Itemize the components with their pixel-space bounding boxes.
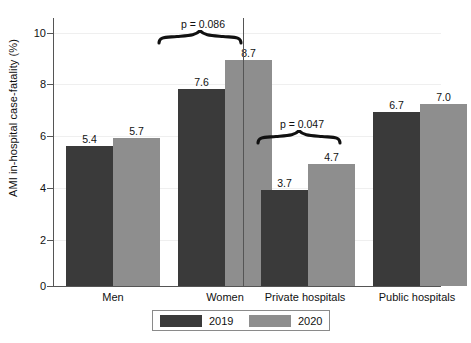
bar-value-public-2019: 6.7 xyxy=(373,99,420,111)
y-tick-label-10: 10 xyxy=(22,27,46,39)
brace-icon xyxy=(255,130,349,146)
category-label-men: Men xyxy=(66,291,160,303)
y-tick-label-0: 0 xyxy=(22,280,46,292)
y-axis-title: AMI in-hospital case-fatality (%) xyxy=(7,0,19,243)
p-value-label-private: p = 0.047 xyxy=(255,118,349,130)
y-tick-label-8: 8 xyxy=(22,78,46,90)
category-label-private-hospitals: Private hospitals xyxy=(244,291,366,303)
legend-item-2020[interactable]: 2020 xyxy=(249,315,322,327)
y-tick-label-6: 6 xyxy=(22,130,46,142)
x-axis-line xyxy=(53,286,441,287)
y-tick-label-4: 4 xyxy=(22,182,46,194)
legend-item-2019[interactable]: 2019 xyxy=(160,315,233,327)
y-axis-title-container: AMI in-hospital case-fatality (%) xyxy=(0,0,16,300)
bar-women-2019 xyxy=(178,89,225,286)
bar-value-public-2020: 7.0 xyxy=(420,91,467,103)
y-axis-line xyxy=(53,18,54,286)
bar-value-women-2019: 7.6 xyxy=(178,76,225,88)
bar-men-2019 xyxy=(66,146,113,286)
bar-men-2020 xyxy=(113,138,160,286)
legend-label-2020: 2020 xyxy=(298,315,322,327)
plot-area: 5.4 5.7 7.6 8.7 3.7 4.7 6.7 7.0 xyxy=(53,18,441,286)
legend-swatch-2019-icon xyxy=(160,315,202,327)
legend-swatch-2020-icon xyxy=(249,315,291,327)
bar-value-men-2020: 5.7 xyxy=(113,125,160,137)
bar-value-private-2019: 3.7 xyxy=(261,177,308,189)
legend: 2019 2020 xyxy=(152,310,330,331)
category-label-public-hospitals: Public hospitals xyxy=(356,291,471,303)
bar-public-2019 xyxy=(373,112,420,286)
bar-public-2020 xyxy=(420,104,467,286)
bar-value-private-2020: 4.7 xyxy=(308,151,355,163)
group-divider xyxy=(243,18,244,286)
bar-private-2020 xyxy=(308,164,355,286)
p-value-label-women: p = 0.086 xyxy=(156,18,250,30)
y-tick-label-2: 2 xyxy=(22,234,46,246)
bar-private-2019 xyxy=(261,190,308,286)
brace-icon xyxy=(156,30,250,46)
legend-label-2019: 2019 xyxy=(209,315,233,327)
bar-value-women-2020: 8.7 xyxy=(225,47,272,59)
bar-value-men-2019: 5.4 xyxy=(66,133,113,145)
